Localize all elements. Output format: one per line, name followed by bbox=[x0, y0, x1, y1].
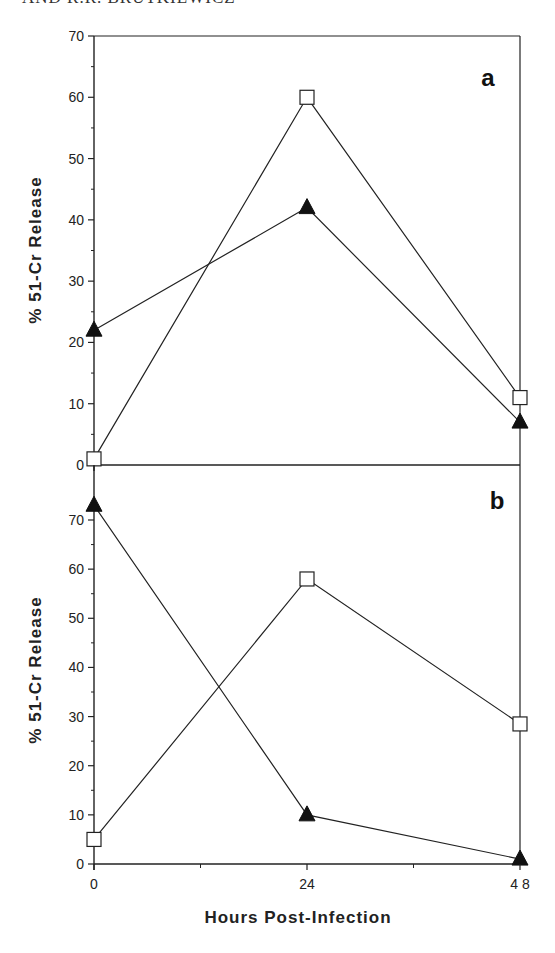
open-square-marker bbox=[300, 572, 314, 586]
series-line-filled-triangle bbox=[94, 208, 520, 423]
y-axis-title-b: % 51-Cr Release bbox=[26, 596, 45, 743]
open-square-marker bbox=[300, 90, 314, 104]
x-tick-label: 0 bbox=[90, 876, 98, 892]
y-tick-label: 10 bbox=[68, 396, 84, 412]
open-square-marker bbox=[513, 717, 527, 731]
y-tick-label: 20 bbox=[68, 334, 84, 350]
x-tick-label: 4 8 bbox=[510, 876, 530, 892]
series-line-open-square bbox=[94, 97, 520, 459]
y-axis-title-a: % 51-Cr Release bbox=[26, 176, 45, 323]
panel-label-a: a bbox=[481, 64, 495, 91]
y-tick-label: 0 bbox=[76, 457, 84, 473]
y-tick-label: 20 bbox=[68, 758, 84, 774]
y-tick-label: 50 bbox=[68, 151, 84, 167]
panel-a: 010203040506070 bbox=[68, 28, 528, 473]
y-tick-label: 70 bbox=[68, 28, 84, 44]
x-axis-title: Hours Post-Infection bbox=[204, 908, 391, 927]
x-axis: 0244 8 bbox=[90, 864, 530, 892]
y-tick-label: 70 bbox=[68, 512, 84, 528]
y-tick-label: 60 bbox=[68, 89, 84, 105]
series-line-open-square bbox=[94, 579, 520, 839]
y-tick-label: 40 bbox=[68, 659, 84, 675]
filled-triangle-marker bbox=[86, 496, 102, 511]
y-tick-label: 30 bbox=[68, 709, 84, 725]
open-square-marker bbox=[87, 452, 101, 466]
filled-triangle-marker bbox=[299, 806, 315, 821]
y-tick-label: 50 bbox=[68, 610, 84, 626]
open-square-marker bbox=[87, 832, 101, 846]
cr-release-chart: 010203040506070 010203040506070 0244 8 %… bbox=[0, 0, 555, 953]
y-tick-label: 40 bbox=[68, 212, 84, 228]
x-tick-label: 24 bbox=[299, 876, 315, 892]
filled-triangle-marker bbox=[299, 199, 315, 214]
filled-triangle-marker bbox=[86, 321, 102, 336]
y-tick-label: 0 bbox=[76, 856, 84, 872]
panel-b: 010203040506070 bbox=[68, 465, 528, 872]
y-tick-label: 10 bbox=[68, 807, 84, 823]
open-square-marker bbox=[513, 391, 527, 405]
y-tick-label: 60 bbox=[68, 561, 84, 577]
filled-triangle-marker bbox=[512, 413, 528, 428]
y-tick-label: 30 bbox=[68, 273, 84, 289]
panel-label-b: b bbox=[490, 487, 505, 514]
